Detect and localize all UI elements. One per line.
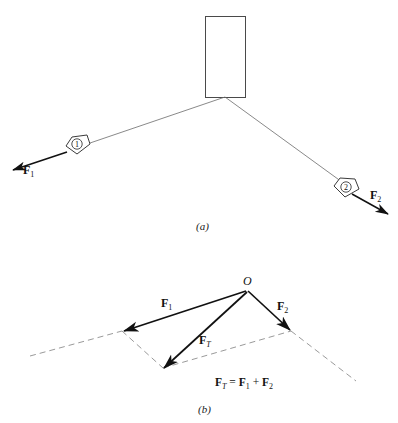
equation-term1-symbol: F <box>239 376 246 388</box>
cable-2 <box>225 97 342 182</box>
dashed-side-f2-parallel <box>122 331 163 368</box>
vector-f1-panel-b <box>124 291 246 331</box>
equation-lhs-symbol: F <box>215 376 222 388</box>
equation-lhs-subscript: T <box>222 382 226 391</box>
dashed-extension-left <box>30 331 122 356</box>
force-subscript-f1-b: 1 <box>168 303 172 312</box>
tag-2-number: 2 <box>340 183 352 192</box>
equation-term1-subscript: 1 <box>246 382 250 391</box>
equation-plus: + <box>253 376 260 388</box>
force-vector-figure: 1 2 F1 F2 (a) O F1 F2 FT FT = F1 + F2 (b… <box>0 0 398 423</box>
tag-1-number: 1 <box>71 140 83 149</box>
cable-1 <box>90 97 225 143</box>
panel-a-graphics <box>13 17 388 215</box>
force-subscript-f2-a: 2 <box>377 195 381 204</box>
force-label-f2-panel-b: F2 <box>277 299 288 315</box>
force-label-f2-panel-a: F2 <box>370 188 381 204</box>
equation-term2-subscript: 2 <box>269 382 273 391</box>
panel-b-caption: (b) <box>198 403 211 415</box>
panel-b-graphics <box>30 291 356 381</box>
force-label-ft-panel-b: FT <box>199 333 211 349</box>
figure-canvas <box>0 0 398 423</box>
rectangular-plate <box>206 17 246 98</box>
panel-a-caption: (a) <box>196 220 209 232</box>
resultant-equation: FT = F1 + F2 <box>215 376 273 391</box>
dashed-side-f1-parallel <box>163 331 291 368</box>
force-label-f1-panel-b: F1 <box>161 296 172 312</box>
force-subscript-ft-b: T <box>206 340 210 349</box>
equation-equals: = <box>229 376 236 388</box>
force-subscript-f2-b: 2 <box>284 306 288 315</box>
force-arrow-f1-panel-a <box>13 152 67 170</box>
force-label-f1-panel-a: F1 <box>23 163 34 179</box>
origin-point-label: O <box>243 274 252 289</box>
dashed-extension-right <box>291 331 356 381</box>
force-subscript-f1-a: 1 <box>30 170 34 179</box>
equation-term2-symbol: F <box>262 376 269 388</box>
